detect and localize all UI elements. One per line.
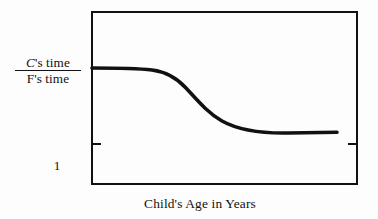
y-axis-numerator-text: 's time	[35, 55, 70, 70]
y-axis-label-numerator: C's time	[15, 56, 81, 71]
y-axis-tick-label-one: 1	[47, 158, 67, 174]
chart-figure: C's time F's time 1 Child's Age in Years	[0, 0, 378, 219]
x-axis-label: Child's Age in Years	[100, 196, 300, 212]
y-axis-numerator-variable: C	[26, 55, 35, 70]
plot-frame	[91, 11, 358, 185]
y-axis-label-denominator: F's time	[15, 71, 81, 86]
y-axis-label: C's time F's time	[15, 56, 81, 86]
